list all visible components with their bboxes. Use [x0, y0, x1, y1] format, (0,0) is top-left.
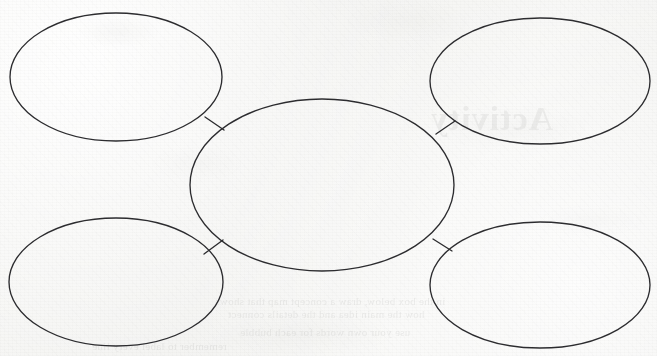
bubble-bottom-right-hitarea[interactable]	[430, 222, 650, 348]
connector-top-right-line	[436, 121, 455, 134]
bubble-bottom-left-hitarea[interactable]	[9, 218, 223, 346]
center-bubble[interactable]	[190, 99, 454, 271]
connector-top-left-line	[205, 117, 224, 130]
bubble-bottom-left[interactable]	[9, 218, 223, 346]
worksheet-page: Activity in the box below, draw a concep…	[0, 0, 657, 356]
bubble-top-right[interactable]	[430, 18, 650, 144]
center-bubble-hitarea[interactable]	[190, 99, 454, 271]
bubble-top-left[interactable]	[10, 13, 222, 141]
bubble-top-left-hitarea[interactable]	[10, 13, 222, 141]
bubble-top-right-hitarea[interactable]	[430, 18, 650, 144]
bubble-bottom-right[interactable]	[430, 222, 650, 348]
concept-map-diagram	[0, 0, 657, 356]
